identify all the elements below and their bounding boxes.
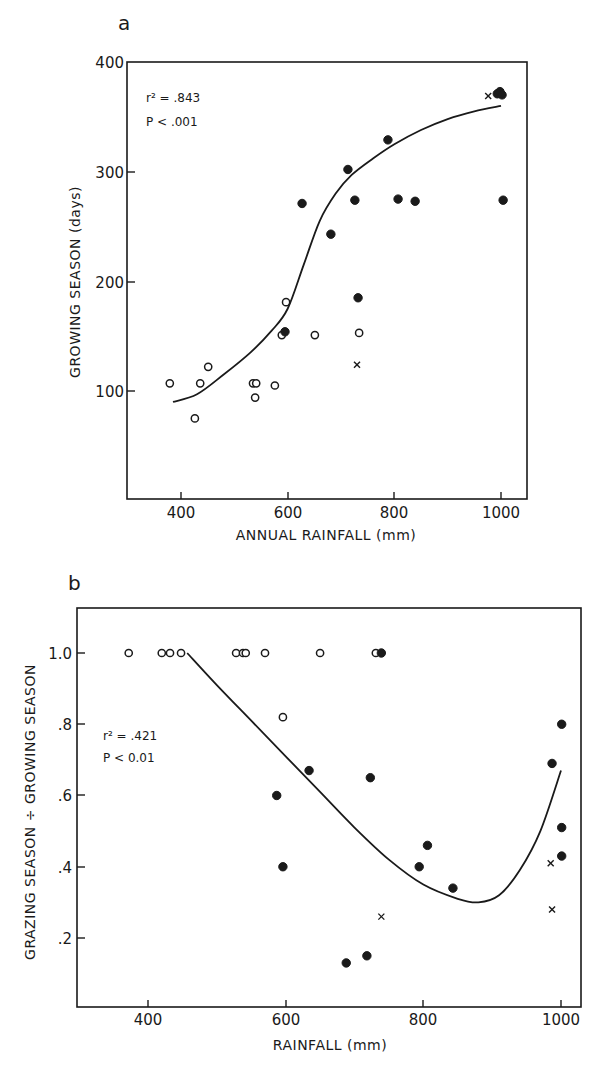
filled-circle-marker bbox=[354, 294, 362, 302]
filled-circle-marker bbox=[415, 863, 423, 871]
panel-a-ytick-400: 400 bbox=[95, 54, 124, 72]
fitted-curve bbox=[173, 106, 501, 402]
filled-circle-marker bbox=[499, 196, 507, 204]
panel-b-xtick-600: 600 bbox=[272, 1011, 301, 1029]
panel-b-ytick-1-0: 1.0 bbox=[48, 645, 72, 663]
panel-b-x-axis: 400 600 800 1000 RAINFALL (mm) bbox=[134, 1000, 580, 1053]
panel-a-label: a bbox=[118, 11, 130, 35]
filled-circle-marker bbox=[411, 197, 419, 205]
panel-b-x-axis-title: RAINFALL (mm) bbox=[273, 1037, 387, 1053]
filled-circle-marker bbox=[327, 230, 335, 238]
panel-a-ytick-100: 100 bbox=[95, 383, 124, 401]
filled-circle-marker bbox=[366, 773, 374, 781]
panel-b: b 1.0 .8 .6 .4 .2 GRAZING SEASON ÷ GROWI… bbox=[22, 571, 581, 1053]
panel-b-y-axis: 1.0 .8 .6 .4 .2 GRAZING SEASON ÷ GROWING… bbox=[22, 645, 85, 960]
open-circle-marker bbox=[125, 649, 132, 656]
cross-marker bbox=[549, 907, 555, 913]
filled-circle-marker bbox=[279, 863, 287, 871]
open-circle-marker bbox=[279, 714, 286, 721]
open-circle-marker bbox=[197, 380, 204, 387]
figure: a 400 300 200 100 GROWING SEASON (days) … bbox=[0, 0, 607, 1076]
filled-circle-marker bbox=[342, 959, 350, 967]
panel-b-ytick-0-2: .2 bbox=[58, 930, 72, 948]
panel-a-p-value: P < .001 bbox=[146, 115, 198, 129]
panel-a-y-axis: 400 300 200 100 GROWING SEASON (days) bbox=[67, 54, 135, 401]
open-circle-marker bbox=[311, 331, 318, 338]
filled-circle-marker bbox=[281, 328, 289, 336]
panel-a-ytick-300: 300 bbox=[95, 164, 124, 182]
panel-b-p-value: P < 0.01 bbox=[103, 751, 155, 765]
open-circle-marker bbox=[158, 649, 165, 656]
filled-circle-marker bbox=[298, 199, 306, 207]
filled-circle-marker bbox=[384, 136, 392, 144]
panel-b-xtick-800: 800 bbox=[409, 1011, 438, 1029]
open-circle-marker bbox=[233, 649, 240, 656]
panel-b-ytick-0-8: .8 bbox=[58, 716, 72, 734]
panel-a-xtick-800: 800 bbox=[380, 504, 409, 522]
filled-circle-marker bbox=[557, 852, 565, 860]
open-circle-marker bbox=[191, 415, 198, 422]
filled-circle-marker bbox=[351, 196, 359, 204]
cross-marker bbox=[548, 860, 554, 866]
filled-circle-marker bbox=[363, 952, 371, 960]
cross-marker bbox=[485, 93, 491, 99]
panel-b-r-squared: r² = .421 bbox=[103, 729, 157, 743]
panel-a: a 400 300 200 100 GROWING SEASON (days) … bbox=[67, 11, 527, 543]
panel-a-y-axis-title: GROWING SEASON (days) bbox=[67, 186, 83, 378]
open-circle-marker bbox=[271, 382, 278, 389]
panel-a-xtick-400: 400 bbox=[167, 504, 196, 522]
panel-b-ytick-0-4: .4 bbox=[58, 859, 72, 877]
open-circle-marker bbox=[253, 380, 260, 387]
filled-circle-marker bbox=[344, 165, 352, 173]
open-circle-marker bbox=[316, 649, 323, 656]
open-circle-marker bbox=[166, 649, 173, 656]
panel-b-data bbox=[125, 649, 566, 967]
open-circle-marker bbox=[205, 363, 212, 370]
cross-marker bbox=[378, 914, 384, 920]
open-circle-marker bbox=[166, 380, 173, 387]
open-circle-marker bbox=[261, 649, 268, 656]
filled-circle-marker bbox=[423, 841, 431, 849]
panel-b-label: b bbox=[68, 571, 81, 595]
panel-b-xtick-1000: 1000 bbox=[542, 1011, 580, 1029]
panel-a-r-squared: r² = .843 bbox=[146, 91, 200, 105]
filled-circle-marker bbox=[273, 791, 281, 799]
open-circle-marker bbox=[177, 649, 184, 656]
panel-b-xtick-400: 400 bbox=[134, 1011, 163, 1029]
panel-a-xtick-1000: 1000 bbox=[482, 504, 520, 522]
cross-marker bbox=[354, 362, 360, 368]
panel-b-y-axis-title: GRAZING SEASON ÷ GROWING SEASON bbox=[22, 664, 38, 960]
filled-circle-marker bbox=[394, 195, 402, 203]
panel-a-ytick-200: 200 bbox=[95, 274, 124, 292]
open-circle-marker bbox=[356, 329, 363, 336]
open-circle-marker bbox=[242, 649, 249, 656]
filled-circle-marker bbox=[377, 649, 385, 657]
panel-a-x-axis-title: ANNUAL RAINFALL (mm) bbox=[236, 527, 417, 543]
panel-b-ytick-0-6: .6 bbox=[58, 787, 72, 805]
filled-circle-marker bbox=[498, 91, 506, 99]
filled-circle-marker bbox=[557, 823, 565, 831]
panel-a-xtick-600: 600 bbox=[274, 504, 303, 522]
open-circle-marker bbox=[252, 394, 259, 401]
filled-circle-marker bbox=[557, 720, 565, 728]
filled-circle-marker bbox=[449, 884, 457, 892]
filled-circle-marker bbox=[305, 766, 313, 774]
filled-circle-marker bbox=[548, 759, 556, 767]
panel-b-plot-frame bbox=[77, 608, 581, 1007]
panel-a-data bbox=[166, 87, 507, 422]
